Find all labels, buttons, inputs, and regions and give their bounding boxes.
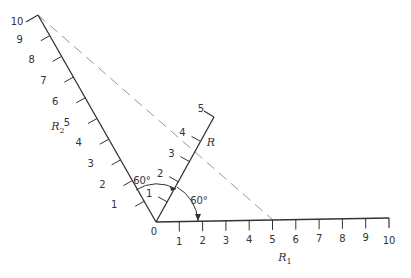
tick-mark <box>180 157 189 162</box>
r2-tick-label: 5 <box>64 118 70 128</box>
r1-tick-label: 7 <box>316 234 322 244</box>
r1-tick-label: 3 <box>223 236 229 246</box>
r-tick-label: 2 <box>157 169 163 179</box>
r2-axis-title: R2 <box>51 121 64 135</box>
tick-mark <box>112 160 121 165</box>
tick-mark <box>64 77 73 82</box>
angle-label-right: 60° <box>190 196 208 206</box>
r2-tick-label: 4 <box>76 138 82 148</box>
r2-tick-label: 8 <box>28 55 34 65</box>
r-tick-label: 5 <box>198 104 204 114</box>
origin-label: 0 <box>151 227 157 237</box>
angle-label-left: 60° <box>133 176 151 186</box>
r-tick-label: 1 <box>146 189 152 199</box>
tick-mark <box>76 98 85 103</box>
r-tick-label: 4 <box>179 128 185 138</box>
r1-tick-label: 8 <box>339 234 345 244</box>
r2-tick-label: 6 <box>52 97 58 107</box>
dashed-solution-line <box>38 15 273 220</box>
r2-tick-label: 1 <box>111 200 117 210</box>
r1-axis-title: R1 <box>278 252 291 266</box>
r1-tick-label: 1 <box>176 237 182 247</box>
r2-tick-label: 9 <box>17 35 23 45</box>
tick-mark <box>100 139 109 144</box>
tick-mark <box>169 177 178 182</box>
nomograph-diagram: 0 123456789101234512345678910 60° 60° R1… <box>0 0 411 278</box>
tick-mark <box>135 201 144 206</box>
r1-tick-label: 5 <box>269 235 275 245</box>
r1-tick-label: 9 <box>363 233 369 243</box>
r-tick-label: 3 <box>168 149 174 159</box>
r-axis-title: R <box>207 137 215 148</box>
r1-tick-label: 10 <box>383 236 396 246</box>
tick-mark <box>192 136 201 141</box>
tick-mark <box>53 56 62 61</box>
tick-mark <box>41 36 50 41</box>
r1-tick-label: 2 <box>199 236 205 246</box>
r2-tick-label: 2 <box>99 180 105 190</box>
r1-tick-label: 6 <box>293 235 299 245</box>
r2-tick-label: 7 <box>40 76 46 86</box>
r1-tick-label: 4 <box>246 235 252 245</box>
r2-tick-label: 3 <box>87 159 93 169</box>
tick-mark <box>123 181 132 186</box>
tick-mark <box>88 119 97 124</box>
r2-tick-label: 10 <box>11 17 24 27</box>
tick-mark <box>158 197 167 202</box>
